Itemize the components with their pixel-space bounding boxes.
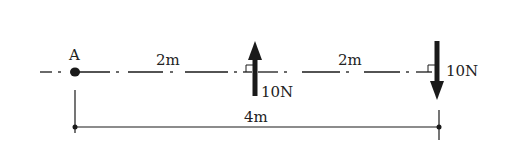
dimension-left-dot (73, 125, 78, 130)
dimension-right-dot (437, 125, 442, 130)
segment-right-label: 2m (338, 51, 362, 69)
point-a-label: A (68, 46, 80, 64)
force-diagram: A 2m 2m 10N 10N 4m (0, 0, 509, 165)
segment-left-label: 2m (156, 51, 180, 69)
down-force-arrow-icon (428, 41, 444, 100)
point-a-dot (70, 68, 80, 77)
force-down-label: 10N (446, 62, 478, 80)
total-length-label: 4m (244, 108, 268, 126)
up-force-arrow-icon (246, 41, 262, 96)
force-up-label: 10N (261, 83, 293, 101)
